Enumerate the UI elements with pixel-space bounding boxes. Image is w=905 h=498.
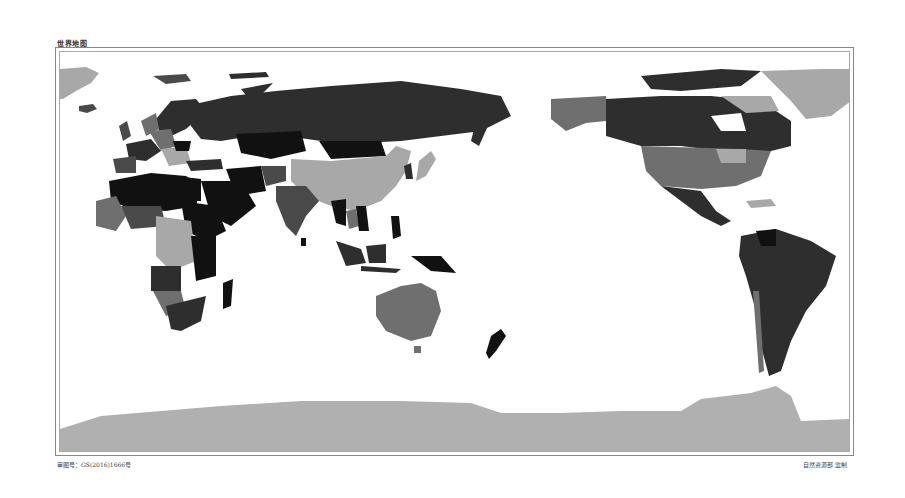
region-philippines [391, 216, 401, 239]
map-canvas [59, 51, 850, 452]
region-indonesia-east [361, 266, 401, 273]
region-australia [376, 283, 441, 341]
region-madagascar [223, 279, 233, 309]
region-antarctica [60, 386, 850, 452]
region-uk [119, 121, 131, 141]
map-supervisor: 自然资源部 监制 [803, 460, 847, 469]
region-myanmar [331, 199, 346, 226]
region-kazakhstan [236, 131, 306, 159]
region-arctic-isles-2 [229, 72, 269, 79]
region-papua-new-guinea [411, 256, 456, 273]
region-vietnam [356, 206, 369, 231]
region-borneo [366, 244, 386, 263]
region-greenland-left [60, 67, 99, 99]
region-sri-lanka [301, 238, 306, 246]
region-drc [156, 216, 196, 271]
region-canadian-arctic [641, 69, 761, 91]
region-alaska [551, 96, 606, 131]
region-mongolia [319, 141, 386, 159]
region-ukraine [173, 141, 191, 151]
region-south-america [739, 229, 836, 376]
region-usa [641, 146, 771, 189]
region-caribbean [746, 199, 776, 208]
region-arctic-isles [153, 74, 191, 84]
region-east-africa [191, 236, 216, 281]
region-malaysia-sumatra [336, 241, 366, 266]
world-map [60, 52, 850, 452]
region-mexico [661, 186, 731, 226]
region-iceland [79, 104, 97, 113]
map-approval-number: 审图号：GS(2016)1666号 [57, 460, 131, 469]
region-turkey [186, 159, 223, 171]
region-angola [151, 266, 181, 291]
region-tasmania [414, 346, 421, 353]
region-iberia [113, 156, 136, 173]
region-russia [186, 81, 511, 143]
region-great-lakes-area [716, 149, 746, 163]
region-japan [416, 151, 436, 181]
region-afghanistan [261, 166, 286, 186]
region-new-zealand [486, 329, 506, 359]
